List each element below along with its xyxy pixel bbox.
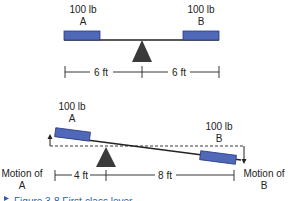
- bottom-weight-a: [55, 128, 91, 141]
- motion-a-line1: Motion of: [1, 168, 42, 179]
- top-dist-right: 6 ft: [172, 67, 186, 78]
- motion-a-line2: A: [19, 180, 26, 191]
- top-dist-left: 6 ft: [94, 67, 108, 78]
- bottom-dist-right: 8 ft: [158, 170, 172, 181]
- bottom-weight-b-label: 100 lb: [205, 121, 233, 132]
- bottom-label-b: B: [216, 133, 223, 144]
- top-weight-b: [183, 31, 219, 40]
- motion-b-line1: Motion of: [243, 168, 284, 179]
- motion-b-arrow-head: [242, 159, 247, 164]
- caption-marker-icon: [4, 196, 9, 201]
- figure-caption: Figure 3-8 First-class lever: [14, 196, 133, 201]
- bottom-dist-left: 4 ft: [74, 170, 88, 181]
- top-weight-a-label: 100 lb: [69, 4, 97, 15]
- top-fulcrum: [132, 40, 152, 62]
- bottom-weight-b: [200, 151, 237, 165]
- bottom-weight-a-label: 100 lb: [58, 101, 86, 112]
- top-weight-a: [64, 31, 100, 40]
- balanced-lever: 100 lb A 100 lb B 6 ft 6 ft: [64, 4, 219, 78]
- top-weight-b-label: 100 lb: [187, 4, 215, 15]
- motion-b-line2: B: [261, 180, 268, 191]
- lever-diagram: 100 lb A 100 lb B 6 ft 6 ft 100 lb A 100…: [0, 0, 288, 201]
- top-label-a: A: [80, 16, 87, 27]
- bottom-fulcrum: [96, 147, 116, 167]
- motion-a-arrow-head: [48, 134, 53, 139]
- tilted-lever: 100 lb A 100 lb B Motion of A Motion of …: [1, 101, 284, 191]
- bottom-label-a: A: [69, 113, 76, 124]
- top-label-b: B: [198, 16, 205, 27]
